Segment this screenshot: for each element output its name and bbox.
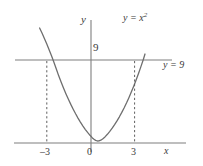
x-axis-label: x xyxy=(164,146,168,156)
horizontal-line-label: y = 9 xyxy=(163,60,184,70)
curve-equation-exponent: 2 xyxy=(144,11,148,19)
y-value-9-label: 9 xyxy=(93,42,99,53)
curve-equation-text: y = x xyxy=(123,12,144,23)
y-axis-label: y xyxy=(81,14,86,25)
x-tick-label-negative-3: –3 xyxy=(40,147,50,157)
x-tick-label-zero: 0 xyxy=(87,147,92,157)
curve-equation-label: y = x2 xyxy=(123,12,147,23)
plot-canvas xyxy=(0,0,203,166)
parabola-figure: y 9 y = x2 y = 9 –3 0 3 x xyxy=(0,0,203,166)
x-tick-label-positive-3: 3 xyxy=(131,147,136,157)
